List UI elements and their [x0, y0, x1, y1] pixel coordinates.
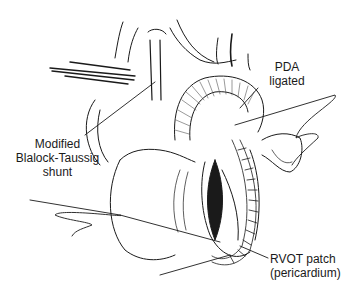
rvot-label-line1: RVOT patch	[270, 252, 351, 266]
shunt-leader-line	[85, 82, 155, 135]
shunt-label-line1: Modified	[10, 137, 105, 151]
shunt-label-line3: shunt	[10, 165, 105, 179]
blalock-taussig-shunt-label: Modified Blalock-Taussig shunt	[10, 137, 105, 179]
pda-ligated-label: PDA ligated	[265, 60, 309, 88]
pda-leader-line	[240, 88, 258, 108]
appendage	[262, 134, 302, 172]
heart-outline	[86, 100, 259, 260]
ventriculotomy	[174, 160, 223, 240]
rvot-leader-line	[240, 246, 268, 258]
shunt-label-line2: Blalock-Taussig	[10, 151, 105, 165]
rvot-patch-label: RVOT patch (pericardium)	[270, 252, 351, 280]
rvot-label-line2: (pericardium)	[270, 266, 351, 280]
pda-label-line2: ligated	[265, 74, 309, 88]
pda-label-line1: PDA	[265, 60, 309, 74]
aorta	[174, 76, 263, 140]
suture-threads	[30, 95, 335, 275]
great-vessels	[115, 20, 250, 100]
forceps-icon	[50, 62, 135, 84]
leader-lines	[85, 82, 268, 258]
